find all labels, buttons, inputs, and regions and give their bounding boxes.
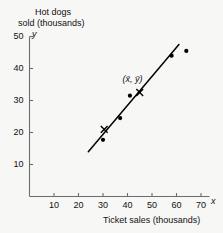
data-point xyxy=(128,94,132,98)
scatter-plot-figure: Hot dogs sold (thousands) y x Ticket sal… xyxy=(0,0,223,233)
plot-canvas xyxy=(0,0,223,233)
regression-line xyxy=(88,45,179,152)
ticks-group xyxy=(30,37,202,197)
y-tick-label: 50 xyxy=(8,31,24,41)
x-tick-label: 20 xyxy=(69,200,89,210)
data-point xyxy=(184,49,188,53)
centroid-annotation: (x̄, ȳ) xyxy=(122,74,142,84)
x-tick-label: 60 xyxy=(167,200,187,210)
y-tick-label: 10 xyxy=(8,159,24,169)
x-tick-label: 30 xyxy=(93,200,113,210)
y-tick-label: 30 xyxy=(8,95,24,105)
x-tick-label: 40 xyxy=(118,200,138,210)
x-tick-label: 10 xyxy=(44,200,64,210)
y-tick-label: 20 xyxy=(8,127,24,137)
data-point xyxy=(118,116,122,120)
data-point xyxy=(170,54,174,58)
x-tick-label: 70 xyxy=(191,200,211,210)
data-points-group xyxy=(101,49,188,142)
x-tick-label: 50 xyxy=(142,200,162,210)
y-tick-label: 40 xyxy=(8,63,24,73)
data-point xyxy=(101,138,105,142)
regression-line-group xyxy=(88,45,179,152)
